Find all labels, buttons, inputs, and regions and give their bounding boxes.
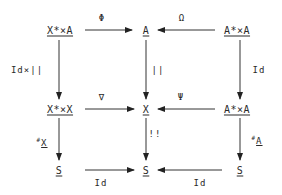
node-x: X <box>143 104 150 115</box>
label-psi: Ψ <box>178 92 184 102</box>
node-label: A*×A <box>224 104 250 115</box>
label-id-bottom-left: Id <box>95 178 108 188</box>
node-label: S <box>237 165 244 176</box>
label-hash-x: #X <box>36 136 47 148</box>
node-s-right: S <box>237 165 244 176</box>
label-hash-a: #A <box>251 134 262 146</box>
node-a-star-times-a-middle: A*×A <box>224 104 250 115</box>
node-label: X*×A <box>47 25 73 36</box>
node-s-left: S <box>56 165 63 176</box>
node-s-middle: S <box>143 165 150 176</box>
node-x-star-times-x: X*×X <box>47 104 73 115</box>
label-norm: || <box>152 65 165 75</box>
node-a-star-times-a-top: A*×A <box>224 25 250 36</box>
label-id-right: Id <box>253 65 266 75</box>
label-nabla: ∇ <box>99 92 105 102</box>
hash-subject: A <box>256 136 262 146</box>
node-label: A <box>143 25 150 36</box>
node-a: A <box>143 25 150 36</box>
hash-subject: X <box>41 138 47 148</box>
node-x-star-times-a: X*×A <box>47 25 73 36</box>
label-id-bottom-right: Id <box>194 178 207 188</box>
node-label: X*×X <box>47 104 73 115</box>
label-id-times-norm: Id×|| <box>11 65 43 75</box>
node-label: S <box>143 165 150 176</box>
label-omega: Ω <box>179 13 185 23</box>
label-bang: !! <box>149 129 162 139</box>
node-label: A*×A <box>224 25 250 36</box>
label-phi: Φ <box>99 13 105 23</box>
node-label: S <box>56 165 63 176</box>
node-label: X <box>143 104 150 115</box>
